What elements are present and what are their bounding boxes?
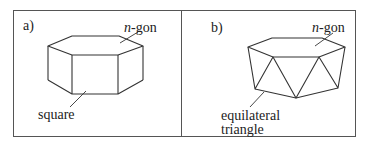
triangle-label: triangle (221, 123, 264, 137)
ngon-label-b: n-gon (312, 21, 345, 35)
square-label: square (38, 108, 75, 122)
equilateral-label: equilateral (221, 109, 280, 123)
ngon-label-a: n-gon (124, 21, 157, 35)
gon-suffix: -gon (131, 20, 157, 35)
gon-suffix: -gon (319, 20, 345, 35)
prism-figure (48, 32, 143, 107)
panel-b-label: b) (211, 21, 223, 35)
antiprism-figure (248, 33, 345, 107)
panel-a-label: a) (23, 19, 34, 33)
n-italic: n (312, 20, 319, 35)
n-italic: n (124, 20, 131, 35)
